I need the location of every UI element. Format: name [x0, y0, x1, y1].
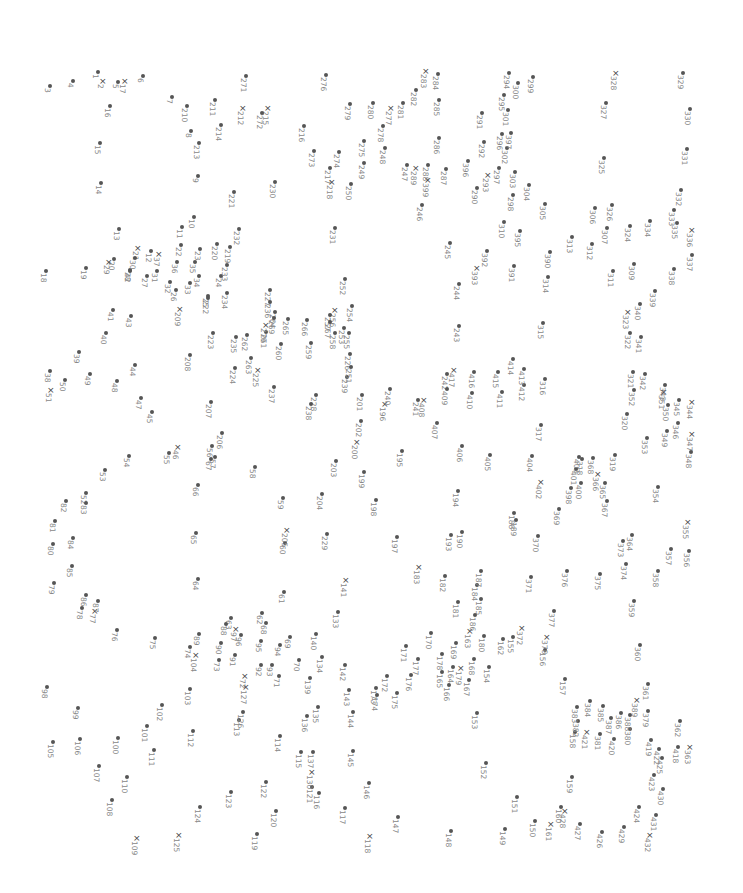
point-number-label: 265	[281, 321, 290, 335]
point-number-label: 388	[623, 717, 632, 731]
point-number-label: 418	[671, 749, 680, 763]
point-number-label: 421	[580, 735, 589, 749]
point-number-label: 233	[220, 267, 229, 281]
point-number-label: 81	[48, 523, 57, 533]
point-number-label: 213	[192, 145, 201, 159]
point-number-label: 349	[660, 433, 669, 447]
point-number-label: 244	[452, 286, 461, 300]
point-number-label: 249	[357, 165, 366, 179]
point-number-label: 278	[376, 128, 385, 142]
point-number-label: 245	[443, 245, 452, 259]
point-number-label: 139	[303, 680, 312, 694]
point-number-label: 400	[574, 485, 583, 499]
point-number-label: 425	[655, 760, 664, 774]
point-number-label: 352	[627, 392, 636, 406]
point-number-label: 405	[483, 457, 492, 471]
point-number-label: 216	[297, 128, 306, 142]
point-number-label: 317	[534, 427, 543, 441]
point-number-label: 125	[172, 838, 181, 852]
point-number-label: 55	[162, 455, 171, 465]
point-number-label: 18	[39, 273, 48, 283]
point-number-label: 176	[404, 677, 413, 691]
point-number-label: 390	[543, 254, 552, 268]
point-number-label: 393	[470, 271, 479, 285]
point-number-label: 304	[522, 187, 531, 201]
point-number-label: 93	[265, 667, 274, 677]
point-number-label: 78	[75, 610, 84, 620]
point-number-label: 330	[683, 111, 692, 125]
point-number-label: 11	[175, 229, 184, 239]
point-number-label: 152	[479, 765, 488, 779]
point-number-label: 420	[607, 741, 616, 755]
point-number-label: 404	[525, 458, 534, 472]
point-number-label: 10	[187, 219, 196, 229]
point-number-label: 332	[674, 192, 683, 206]
point-number-label: 338	[667, 271, 676, 285]
point-number-label: 369	[552, 511, 561, 525]
point-number-label: 357	[664, 551, 673, 565]
point-number-label: 110	[120, 779, 129, 793]
point-number-label: 248	[378, 150, 387, 164]
point-number-label: 281	[396, 105, 405, 119]
point-number-label: 153	[470, 715, 479, 729]
point-number-label: 325	[597, 160, 606, 174]
point-number-label: 9	[191, 178, 200, 183]
point-number-label: 282	[409, 92, 418, 106]
point-number-label: 50	[58, 382, 67, 392]
point-number-label: 123	[224, 794, 233, 808]
point-number-label: 59	[276, 500, 285, 510]
point-number-label: 163	[463, 634, 472, 648]
point-number-label: 364	[625, 537, 634, 551]
point-number-label: 375	[593, 576, 602, 590]
point-number-label: 283	[419, 74, 428, 88]
point-number-label: 102	[155, 707, 164, 721]
point-number-label: 35	[188, 264, 197, 274]
point-number-label: 250	[344, 186, 353, 200]
point-number-label: 218	[325, 185, 334, 199]
point-number-label: 396	[461, 163, 470, 177]
point-number-label: 232	[232, 231, 241, 245]
point-number-label: 397	[504, 135, 513, 149]
point-number-label: 309	[627, 266, 636, 280]
point-number-label: 167	[462, 682, 471, 696]
point-number-label: 275	[357, 143, 366, 157]
point-number-label: 366	[591, 477, 600, 491]
point-number-label: 289	[409, 171, 418, 185]
point-number-label: 255	[342, 335, 351, 349]
point-number-label: 372	[515, 631, 524, 645]
point-number-label: 240	[383, 391, 392, 405]
point-number-label: 48	[110, 383, 119, 393]
point-number-label: 331	[680, 151, 689, 165]
point-number-label: 51	[44, 393, 53, 403]
point-number-label: 203	[329, 463, 338, 477]
point-number-label: 166	[442, 687, 451, 701]
point-number-label: 82	[59, 503, 68, 513]
point-number-label: 137	[306, 754, 315, 768]
point-number-label: 46	[171, 450, 180, 460]
point-number-label: 101	[140, 728, 149, 742]
point-number-label: 260	[274, 346, 283, 360]
point-number-label: 414	[506, 361, 515, 375]
point-number-label: 92	[254, 667, 263, 677]
point-number-label: 319	[608, 457, 617, 471]
point-number-label: 150	[528, 823, 537, 837]
point-number-label: 225	[251, 373, 260, 387]
point-number-label: 147	[391, 819, 400, 833]
point-number-label: 107	[92, 768, 101, 782]
point-number-label: 199	[357, 474, 366, 488]
point-number-label: 39	[72, 354, 81, 364]
point-number-label: 177	[411, 661, 420, 675]
point-number-label: 336	[685, 233, 694, 247]
point-number-label: 371	[524, 579, 533, 593]
point-number-label: 180	[477, 638, 486, 652]
point-number-label: 360	[633, 647, 642, 661]
point-number-label: 270	[259, 328, 268, 342]
point-number-label: 14	[94, 185, 103, 195]
point-number-label: 413	[517, 371, 526, 385]
point-number-label: 206	[215, 435, 224, 449]
point-number-label: 178	[435, 656, 444, 670]
point-number-label: 61	[277, 594, 286, 604]
point-number-label: 194	[451, 493, 460, 507]
point-number-label: 299	[526, 79, 535, 93]
point-number-label: 285	[432, 102, 441, 116]
